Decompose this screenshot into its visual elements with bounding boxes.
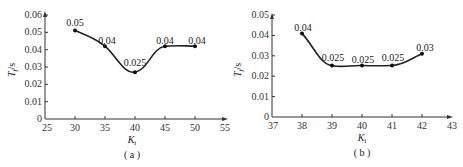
chart-b-ytick-2: 0.02 xyxy=(252,70,270,81)
chart-a-ytick-1: 0.01 xyxy=(25,96,43,107)
chart-a-xtick-6: 55 xyxy=(220,122,230,133)
chart-b-xlabel: Ki xyxy=(357,132,367,145)
chart-b-xtick-3: 40 xyxy=(357,120,367,131)
svg-text:0.04: 0.04 xyxy=(294,22,312,33)
svg-text:0.025: 0.025 xyxy=(382,52,405,63)
chart-a: 0 0.01 0.02 0.03 0.04 0.05 0.06 25 30 35… xyxy=(6,9,230,161)
chart-a-xlabel: Ki xyxy=(127,134,137,147)
chart-b-xtick-1: 38 xyxy=(297,120,307,131)
chart-b-xtick-0: 37 xyxy=(268,120,278,131)
svg-text:0.025: 0.025 xyxy=(124,57,147,68)
chart-b-xtick-5: 42 xyxy=(417,120,427,131)
chart-a-xtick-1: 30 xyxy=(70,122,80,133)
chart-a-xtick-0: 25 xyxy=(42,122,52,133)
chart-a-xtick-3: 40 xyxy=(130,122,140,133)
chart-b-x-arrow-icon xyxy=(447,115,453,119)
chart-b-ytick-4: 0.04 xyxy=(252,29,270,40)
chart-a-ylabel: Tf/s xyxy=(6,63,19,77)
chart-a-xtick-2: 35 xyxy=(100,122,110,133)
chart-a-data-labels: 0.05 0.04 0.025 0.04 0.04 xyxy=(66,17,206,68)
chart-b-ytick-5: 0.05 xyxy=(252,9,270,20)
svg-text:0.025: 0.025 xyxy=(322,52,345,63)
svg-text:0.04: 0.04 xyxy=(188,35,206,46)
chart-a-x-arrow-icon xyxy=(222,117,228,121)
chart-b-xtick-4: 41 xyxy=(387,120,397,131)
chart-b-ylabel: Tf/s xyxy=(232,63,245,77)
svg-text:0.03: 0.03 xyxy=(416,42,434,53)
chart-a-y-ticks: 0 0.01 0.02 0.03 0.04 0.05 0.06 xyxy=(25,9,49,124)
chart-a-ytick-3: 0.03 xyxy=(25,61,43,72)
svg-text:0.04: 0.04 xyxy=(98,35,116,46)
chart-b-panel-label: ( b ) xyxy=(354,147,371,159)
chart-b-ytick-3: 0.03 xyxy=(252,50,270,61)
chart-a-ytick-4: 0.04 xyxy=(25,44,43,55)
svg-text:0.025: 0.025 xyxy=(352,54,375,65)
chart-b-y-ticks: 0 0.01 0.02 0.03 0.04 0.05 xyxy=(252,9,276,122)
chart-b-xtick-6: 43 xyxy=(447,120,457,131)
chart-a-ytick-5: 0.05 xyxy=(25,26,43,37)
svg-text:0.05: 0.05 xyxy=(66,17,84,28)
chart-a-xtick-4: 45 xyxy=(160,122,170,133)
chart-a-xtick-5: 50 xyxy=(190,122,200,133)
chart-b: 0 0.01 0.02 0.03 0.04 0.05 37 38 39 40 4… xyxy=(232,9,457,159)
chart-a-panel-label: ( a ) xyxy=(124,149,140,161)
chart-a-ytick-2: 0.02 xyxy=(25,78,43,89)
figure: 0 0.01 0.02 0.03 0.04 0.05 0.06 25 30 35… xyxy=(0,0,463,167)
chart-b-y-arrow-icon xyxy=(270,13,274,19)
svg-text:0.04: 0.04 xyxy=(156,35,174,46)
chart-b-ytick-1: 0.01 xyxy=(252,91,270,102)
chart-a-ytick-6: 0.06 xyxy=(25,9,43,20)
chart-a-y-arrow-icon xyxy=(43,11,47,17)
chart-b-xtick-2: 39 xyxy=(327,120,337,131)
